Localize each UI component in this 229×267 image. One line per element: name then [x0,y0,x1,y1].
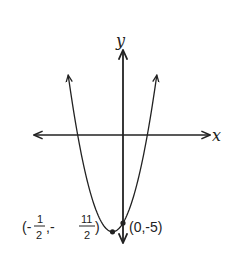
svg-text:,-: ,- [46,219,55,235]
y-intercept-point [120,220,125,225]
parabola-graph: x y (- 1 2 ,- 11 2 ) (0,-5) [0,0,229,267]
parabola-curve [68,75,157,232]
vertex-point [110,229,115,234]
svg-text:1: 1 [37,213,43,225]
x-axis-label: x [212,126,221,145]
svg-text:11: 11 [81,213,92,225]
y-axis-label: y [115,31,126,50]
svg-text:): ) [95,219,100,235]
svg-text:2: 2 [36,229,42,241]
vertex-label: (- 1 2 ,- 11 2 ) [22,213,100,241]
svg-text:2: 2 [84,229,90,241]
svg-text:(-: (- [22,219,32,235]
y-intercept-label: (0,-5) [129,219,162,235]
